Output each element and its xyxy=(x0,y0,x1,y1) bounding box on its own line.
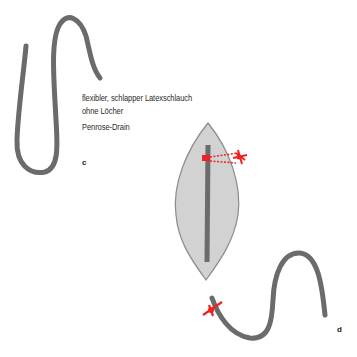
description-line-2: ohne Löcher xyxy=(82,106,123,116)
latex-tube-d xyxy=(212,253,325,338)
penrose-drain-illustration: flexibler, schlapper Latexschlauch ohne … xyxy=(0,0,357,357)
drain-name-label: Penrose-Drain xyxy=(82,122,130,132)
drain-in-wound xyxy=(207,145,208,262)
panel-letter-c: c xyxy=(82,158,86,167)
description-line-1: flexibler, schlapper Latexschlauch xyxy=(82,93,192,103)
panel-letter-d: d xyxy=(337,325,342,334)
